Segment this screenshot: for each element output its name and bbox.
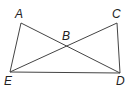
geometry-diagram: A C B E D xyxy=(0,0,130,88)
label-B: B xyxy=(62,29,70,43)
label-D: D xyxy=(116,74,125,88)
segment-CD xyxy=(117,23,120,73)
segment-AE xyxy=(10,23,21,72)
segment-ED xyxy=(10,72,120,73)
segment-AD xyxy=(21,23,120,73)
label-C: C xyxy=(112,7,121,21)
label-A: A xyxy=(14,7,23,21)
label-E: E xyxy=(4,74,13,88)
